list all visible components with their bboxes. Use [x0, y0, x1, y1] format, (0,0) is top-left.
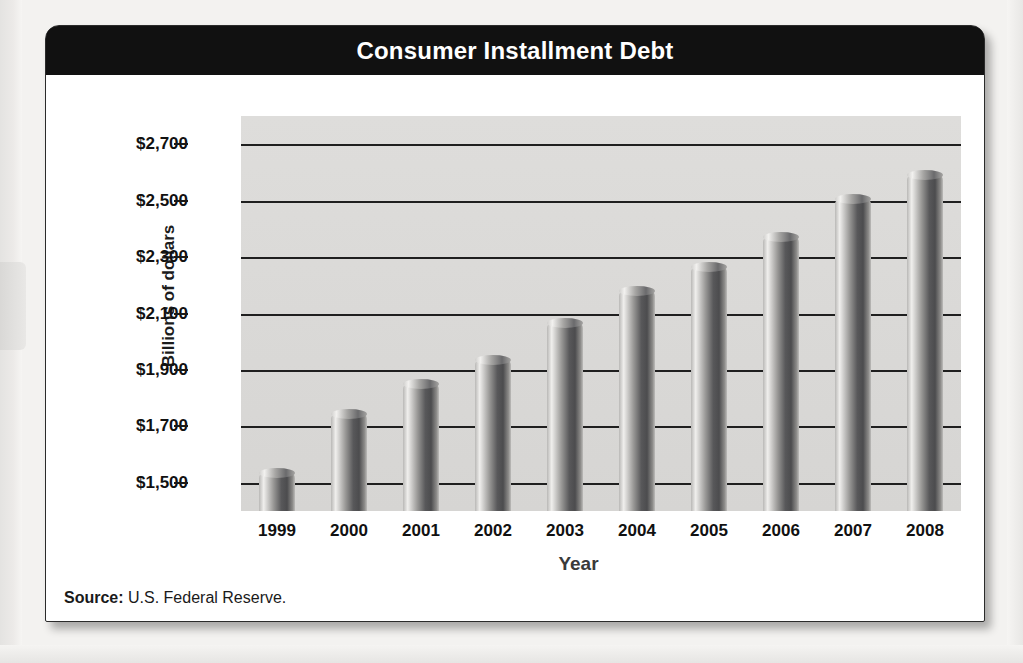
page-bottom-edge — [0, 645, 1023, 663]
y-axis-tick-labels: $1,500$1,700$1,900$2,100$2,300$2,500$2,7… — [100, 91, 188, 511]
page-edge-tab — [0, 262, 26, 350]
plot-wrapper: Billions of dollars $1,500$1,700$1,900$2… — [196, 91, 961, 541]
y-axis-tick-mark — [174, 369, 188, 371]
chart-title-bar: Consumer Installment Debt — [46, 26, 984, 75]
chart-title: Consumer Installment Debt — [356, 37, 673, 65]
x-axis-tick-label-2008: 2008 — [906, 521, 944, 541]
bar-cap — [907, 170, 943, 180]
source-text: U.S. Federal Reserve. — [124, 589, 287, 606]
source-label: Source: — [64, 589, 124, 606]
bar-2004 — [619, 291, 655, 511]
plot-area — [241, 116, 961, 511]
page-right-edge — [1007, 0, 1023, 663]
bar-cap — [835, 194, 871, 204]
bar-2007 — [835, 199, 871, 511]
bar-2001 — [403, 384, 439, 511]
bar-2000 — [331, 414, 367, 511]
x-axis-tick-label-2005: 2005 — [690, 521, 728, 541]
y-axis-tick-mark — [174, 313, 188, 315]
bar-2005 — [691, 267, 727, 511]
x-axis-title: Year — [196, 553, 961, 575]
bar-series — [241, 116, 961, 511]
bar-2002 — [475, 360, 511, 511]
x-axis-tick-label-2007: 2007 — [834, 521, 872, 541]
x-axis-tick-label-2006: 2006 — [762, 521, 800, 541]
bar-cap — [763, 232, 799, 242]
bar-cap — [547, 318, 583, 328]
bar-cap — [475, 355, 511, 365]
bar-cap — [403, 379, 439, 389]
bar-1999 — [259, 473, 295, 511]
chart-card: Consumer Installment Debt Billions of do… — [45, 25, 985, 622]
bar-cap — [259, 468, 295, 478]
y-axis-tick-mark — [174, 256, 188, 258]
bar-2003 — [547, 323, 583, 511]
y-axis-tick-mark — [174, 425, 188, 427]
source-note: Source: U.S. Federal Reserve. — [64, 589, 286, 607]
y-axis-tick-mark — [174, 482, 188, 484]
y-axis-tick-mark — [174, 200, 188, 202]
y-axis-tick-mark — [174, 143, 188, 145]
x-axis-tick-label-1999: 1999 — [258, 521, 296, 541]
bar-cap — [691, 262, 727, 272]
x-axis-tick-label-2001: 2001 — [402, 521, 440, 541]
x-axis-tick-label-2004: 2004 — [618, 521, 656, 541]
bar-2006 — [763, 237, 799, 511]
bar-cap — [619, 286, 655, 296]
bar-2008 — [907, 175, 943, 511]
bar-cap — [331, 409, 367, 419]
x-axis-tick-labels: 1999200020012002200320042005200620072008 — [241, 521, 961, 547]
x-axis-tick-label-2000: 2000 — [330, 521, 368, 541]
x-axis-tick-label-2002: 2002 — [474, 521, 512, 541]
x-axis-tick-label-2003: 2003 — [546, 521, 584, 541]
